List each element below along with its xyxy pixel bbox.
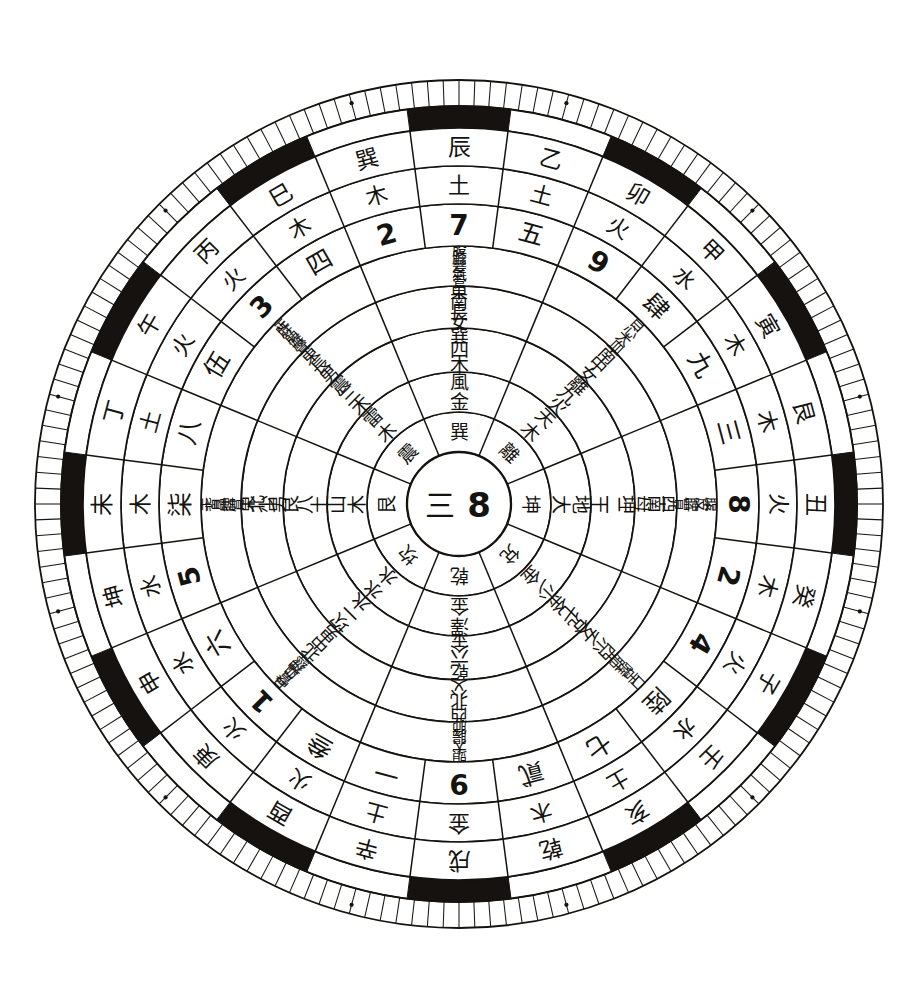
ring-body-organ-cell-7: 頭大腸肺 [452,718,467,766]
graduation-marker-dot [750,208,754,212]
graduation-marker-dot [750,795,754,799]
ring-cell-glyph: 辰 [448,134,471,160]
ring-cell-glyph: 土 [448,173,470,198]
ring-numeral-cell-17: 8 [722,494,755,513]
ring-cell-numeral: 9 [449,767,468,800]
ring-bagua-element-cell-5: 地大 [550,495,592,514]
ring-cell-glyph: 未 [89,493,115,516]
ring-cell-glyph: 母 [632,495,653,513]
ring-cell-numeral: 7 [449,209,468,242]
ring-cell-glyph: 金 [450,391,469,413]
graduation-marker-dot [349,903,353,907]
graduation-marker-dot [163,795,167,799]
ring-stem-branch-cell-17: 丑 [803,493,829,516]
graduation-marker-dot [349,101,353,105]
ring-numeral-cell-23: 9 [449,767,468,800]
ring-bagua-element-cell-7: 澤金 [450,595,469,637]
ring-stem-branch-cell-5: 未 [89,493,115,516]
luopan-compass-svg: 坎艮震巽離坤兌乾水水山木雷木風金天木地大少金澤金坎一水艮八土震三木巽四木離九火坤… [0,0,918,1008]
graduation-marker-dot [564,903,568,907]
center-right-numeral: 8 [467,485,491,525]
ring-cell-glyph: 女 [450,312,468,333]
ring-stem-branch-cell-23: 戌 [448,848,471,874]
ring-cell-glyph: 金 [450,595,469,617]
ring-cell-glyph: 艮 [376,495,398,514]
ring-cell-glyph: 肺 [452,718,467,736]
ring-cell-glyph: 坤 [520,495,542,514]
graduation-marker-dot [56,394,60,398]
ring-bagua-element-cell-3: 風金 [450,371,469,413]
ring-bagua-name-cell-7: 乾 [450,565,469,587]
ring-cell-numeral: 8 [722,494,755,513]
ring-cell-glyph: 巽 [450,421,469,443]
ring-cell-glyph: 丑 [803,493,829,516]
graduation-marker-dot [858,394,862,398]
ring-cell-glyph: 大 [550,495,572,514]
ring-cell-glyph: 胃 [228,497,246,512]
ring-body-organ-cell-5: 腹皮脾胃 [673,497,721,512]
center-left-glyph: 三 [425,488,455,523]
ring-number-element-cell-7: 乾六金 [450,632,469,683]
ring-bagua-name-cell-3: 巽 [450,421,469,443]
ring-cell-glyph: 木 [128,493,153,515]
ring-stem-branch-cell-11: 辰 [448,134,471,160]
ring-cell-glyph: 金 [448,811,470,836]
center-disc [407,452,511,556]
ring-cell-glyph: 木 [450,354,469,376]
graduation-marker-dot [163,208,167,212]
ring-numeral-cell-5: 柒 [166,492,195,517]
luopan-diagram-stage: 坎艮震巽離坤兌乾水水山木雷木風金天木地大少金澤金坎一水艮八土震三木巽四木離九火坤… [0,0,918,1008]
ring-number-element-cell-5: 坤二土 [587,495,638,514]
ring-element-cell-17: 火 [766,493,791,515]
ring-cell-glyph: 胃 [673,497,691,512]
ring-cell-glyph: 柒 [166,492,195,517]
ring-cell-glyph: 管 [452,273,467,291]
ring-cell-glyph: 火 [766,493,791,515]
ring-cell-glyph: 父 [450,677,468,698]
ring-cell-glyph: 金 [450,632,469,654]
ring-cell-glyph: 木 [346,495,368,514]
ring-numeral-cell-11: 7 [449,209,468,242]
ring-bagua-name-cell-5: 坤 [520,495,542,514]
ring-element-cell-5: 木 [128,493,153,515]
ring-bagua-element-cell-1: 山木 [326,495,368,514]
ring-cell-glyph: 男 [267,495,288,513]
graduation-marker-dot [564,101,568,105]
ring-element-cell-11: 土 [448,173,470,198]
ring-body-organ-cell-3: 股膽髮氣管 [452,241,467,291]
graduation-marker-dot [56,609,60,613]
ring-cell-glyph: 乾 [450,565,469,587]
ring-cell-glyph: 戌 [448,848,471,874]
graduation-marker-dot [858,609,862,613]
center-disc-group: 三8 [407,452,511,556]
ring-cell-glyph: 土 [309,495,331,514]
ring-bagua-name-cell-1: 艮 [376,495,398,514]
ring-element-cell-23: 金 [448,811,470,836]
ring-body-organ-cell-1: 手背鼻脾胃 [196,497,246,512]
ring-cell-glyph: 土 [587,495,609,514]
